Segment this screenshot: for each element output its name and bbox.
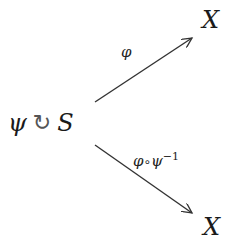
- compose-symbol: ∘: [144, 155, 152, 169]
- target-node-top: X: [202, 8, 219, 32]
- label-phi: φ: [133, 152, 144, 170]
- arrow-phi: [95, 38, 192, 102]
- edge-label-phi-psi-inverse: φ∘ψ−1: [133, 151, 179, 169]
- circular-arrow-icon: ↻: [33, 112, 51, 134]
- label-exponent: −1: [163, 150, 179, 163]
- commutative-diagram: ψ ↻ S X X φ φ∘ψ−1: [0, 0, 235, 251]
- target-node-bottom: X: [203, 215, 220, 239]
- edge-label-phi: φ: [121, 45, 132, 60]
- set-s: S: [57, 111, 73, 135]
- label-psi: ψ: [151, 152, 163, 170]
- source-node: ψ ↻ S: [8, 111, 74, 135]
- group-psi: ψ: [8, 111, 27, 135]
